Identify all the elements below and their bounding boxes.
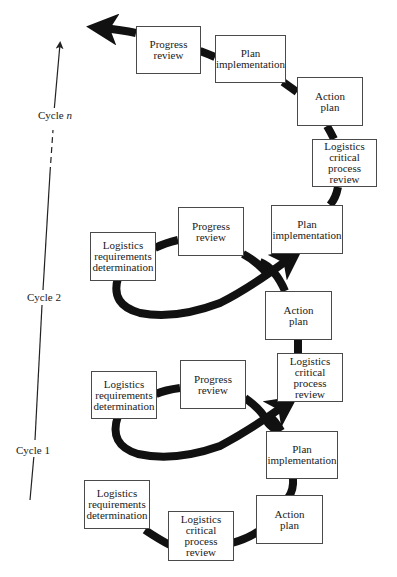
box-label: Logistics critical process review	[181, 514, 221, 558]
box-cycle-1-requirements-determination: Logistics requirements determination	[84, 480, 150, 529]
box-label: Logistics requirements determination	[93, 379, 154, 412]
path-c2-progress-to-req	[155, 240, 178, 248]
box-label: Action plan	[284, 305, 314, 327]
box-label: Plan implementation	[272, 219, 341, 241]
path-cn-impl-to-progress	[200, 51, 215, 57]
path-c2-impl-to-cn-crit	[330, 187, 338, 205]
box-cycle-2-progress-review: Progress review	[178, 207, 244, 256]
box-cycle-1-critical-process-review-upper: Logistics critical process review	[277, 353, 343, 402]
box-label: Action plan	[315, 91, 345, 113]
axis-line-segment-2	[35, 305, 42, 440]
path-cn-action-to-impl	[283, 82, 297, 92]
box-label: Progress review	[194, 374, 232, 396]
box-label: Logistics requirements determination	[92, 240, 153, 273]
box-cycle-1-requirements-determination-upper: Logistics requirements determination	[91, 371, 157, 419]
box-label: Progress review	[150, 39, 188, 61]
box-cycle-1-critical-process-review: Logistics critical process review	[168, 511, 234, 561]
box-label: Plan implementation	[216, 48, 285, 70]
box-cycle-1-progress-review: Progress review	[180, 360, 246, 409]
box-cycle-n-progress-review: Progress review	[136, 26, 201, 74]
cycle-n-variable: n	[66, 109, 72, 121]
box-cycle-2-requirements-determination: Logistics requirements determination	[90, 232, 156, 281]
box-cycle-n-plan-implementation: Plan implementation	[215, 35, 286, 83]
path-c1-progress-to-req	[156, 388, 180, 394]
box-label: Logistics requirements determination	[86, 488, 147, 521]
box-label: Plan implementation	[267, 444, 336, 466]
cycle-n-label: Cycle n	[38, 108, 72, 122]
path-cn-crit-to-action	[327, 126, 334, 139]
box-cycle-n-critical-process-review: Logistics critical process review	[312, 139, 377, 187]
box-cycle-1-plan-implementation: Plan implementation	[266, 431, 338, 479]
cycle-2-label: Cycle 2	[27, 290, 61, 304]
box-label: Logistics critical process review	[324, 141, 364, 185]
axis-line-segment-1	[30, 455, 34, 500]
axis-line-segment-3	[43, 173, 50, 290]
box-label: Logistics critical process review	[290, 356, 330, 400]
box-label: Action plan	[275, 509, 305, 531]
box-cycle-2-plan-implementation: Plan implementation	[271, 205, 343, 254]
box-label: Progress review	[192, 221, 230, 243]
box-cycle-1-action-plan: Action plan	[256, 495, 323, 544]
cycle-n-prefix: Cycle	[38, 109, 66, 121]
path-cn-exit-arrow	[102, 28, 136, 33]
axis-dashed-segment	[50, 130, 53, 173]
path-c1-req-to-crit	[145, 530, 170, 545]
axis-arrow-segment	[54, 44, 60, 112]
box-cycle-n-action-plan: Action plan	[297, 77, 363, 126]
cycle-1-label: Cycle 1	[16, 443, 50, 457]
box-cycle-2-action-plan: Action plan	[265, 291, 332, 340]
